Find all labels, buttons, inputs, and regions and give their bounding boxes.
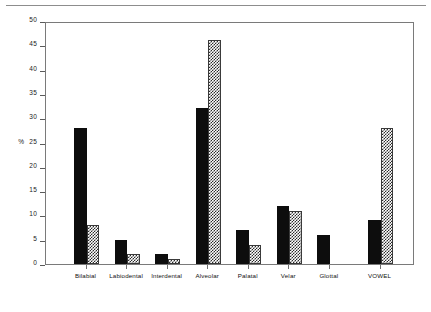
bar-vowel-series2 <box>381 128 394 264</box>
bar-interdental-series2 <box>168 259 181 264</box>
category-tick-mark <box>167 265 168 269</box>
bar-alveolar-series2 <box>208 40 221 264</box>
bar-palatal-series1 <box>236 230 249 264</box>
bar-velar-series2 <box>289 211 302 264</box>
y-tick-mark <box>40 265 45 266</box>
y-tick-label: 0 <box>33 259 37 266</box>
y-tick-label: 10 <box>29 210 37 217</box>
y-tick-label: 20 <box>29 162 37 169</box>
category-label-vowel: VOWEL <box>350 272 410 279</box>
y-tick-label: 15 <box>29 186 37 193</box>
y-tick-label: 45 <box>29 40 37 47</box>
bar-labiodental-series2 <box>127 254 140 264</box>
category-tick-mark <box>288 265 289 269</box>
y-tick-label: 50 <box>29 16 37 23</box>
bar-interdental-series1 <box>155 254 168 264</box>
y-tick-label: 35 <box>29 89 37 96</box>
bar-chart-figure: 0510152025%3035404550 BilabialLabiodenta… <box>0 0 431 312</box>
bar-alveolar-series1 <box>196 108 209 264</box>
bar-bilabial-series1 <box>74 128 87 264</box>
y-tick-label: 40 <box>29 65 37 72</box>
category-tick-mark <box>207 265 208 269</box>
category-tick-mark <box>86 265 87 269</box>
category-tick-mark <box>380 265 381 269</box>
header-rule <box>6 5 426 6</box>
category-tick-mark <box>248 265 249 269</box>
category-tick-mark <box>329 265 330 269</box>
bar-glottal-series1 <box>317 235 330 264</box>
bar-velar-series1 <box>277 206 290 264</box>
y-tick-label: 25 <box>29 138 37 145</box>
y-axis-unit-label: % <box>18 138 24 145</box>
y-tick-label: 5 <box>33 235 37 242</box>
bar-palatal-series2 <box>249 245 262 264</box>
category-tick-mark <box>126 265 127 269</box>
bar-bilabial-series2 <box>87 225 100 264</box>
plot-area <box>45 22 414 265</box>
bar-vowel-series1 <box>368 220 381 264</box>
y-tick-label: 30 <box>29 113 37 120</box>
bar-labiodental-series1 <box>115 240 128 264</box>
